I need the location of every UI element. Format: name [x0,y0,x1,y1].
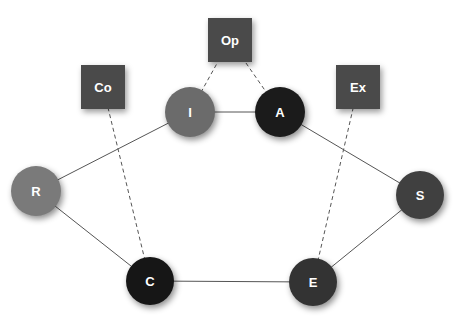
diagram-canvas: Op Co Ex I A R S C E [0,0,469,320]
box-co[interactable]: Co [81,65,125,109]
node-c-label: C [145,274,154,289]
box-ex[interactable]: Ex [336,65,380,109]
edge-ex-e [313,87,358,282]
node-i-label: I [188,105,192,120]
node-s[interactable]: S [396,171,444,219]
box-co-label: Co [94,80,111,95]
node-r-label: R [31,184,40,199]
node-i[interactable]: I [165,87,215,137]
edge-co-c [103,87,150,281]
node-s-label: S [416,188,425,203]
box-op-label: Op [221,33,239,48]
box-op[interactable]: Op [208,18,252,62]
node-e[interactable]: E [289,258,337,306]
node-e-label: E [309,275,318,290]
node-r[interactable]: R [11,166,61,216]
edge-i-r [36,112,190,191]
node-a-label: A [275,105,284,120]
box-ex-label: Ex [350,80,366,95]
node-c[interactable]: C [126,257,174,305]
node-a[interactable]: A [255,87,305,137]
